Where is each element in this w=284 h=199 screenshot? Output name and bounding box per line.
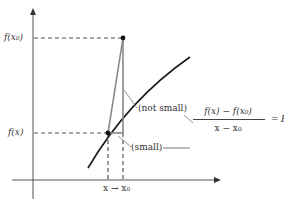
not-small-to-formula-leader (184, 115, 193, 123)
formula-equals: = (271, 114, 279, 124)
diagram-canvas (0, 0, 284, 199)
formula-numerator: f(x) − f(x₀) (191, 106, 265, 116)
y-axis-arrow-icon (30, 8, 36, 15)
not-small-label: (not small) (138, 104, 187, 113)
y-label-fx0: f(x₀) (4, 33, 23, 42)
small-leader (118, 136, 131, 147)
x-label: x → x₀ (103, 184, 130, 193)
formula-denominator: x − x₀ (191, 123, 265, 133)
small-label: (small) (131, 143, 162, 152)
x-axis-arrow-icon (214, 177, 221, 183)
secant-line (108, 38, 123, 133)
not-small-leader (124, 90, 137, 108)
formula-result: R(x) (281, 114, 284, 124)
y-label-fx: f(x) (8, 128, 23, 137)
point-x0 (121, 36, 126, 41)
point-x (106, 131, 111, 136)
fraction-bar (193, 119, 265, 120)
